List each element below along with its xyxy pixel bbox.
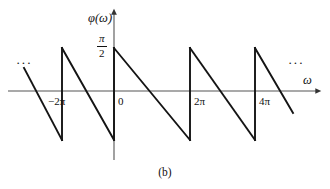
x-tick-4pi: 4π xyxy=(259,95,270,107)
figure-caption: (b) xyxy=(0,166,330,178)
ramp-segment-3 xyxy=(190,48,255,140)
ramp-segment-1 xyxy=(62,48,114,140)
ramp-segment-2 xyxy=(114,48,190,140)
x-tick-2pi: 2π xyxy=(194,95,205,107)
figure-panel: φ(ω) ω π 2 −2π 0 2π 4π ··· ··· (b) xyxy=(0,0,330,189)
x-tick-zero: 0 xyxy=(118,95,124,107)
fraction-pi-over-2: π 2 xyxy=(97,33,107,59)
continuation-ellipsis-left: ··· xyxy=(16,55,32,71)
fraction-denominator: 2 xyxy=(97,48,107,60)
fraction-numerator: π xyxy=(97,33,107,45)
y-tick-pi-over-2: π 2 xyxy=(97,33,107,59)
x-axis-label: ω xyxy=(303,74,312,87)
continuation-ellipsis-right: ··· xyxy=(288,55,304,71)
sawtooth-curve xyxy=(24,48,293,140)
x-tick-minus-2pi: −2π xyxy=(48,95,65,107)
y-axis-label: φ(ω) xyxy=(88,12,112,25)
